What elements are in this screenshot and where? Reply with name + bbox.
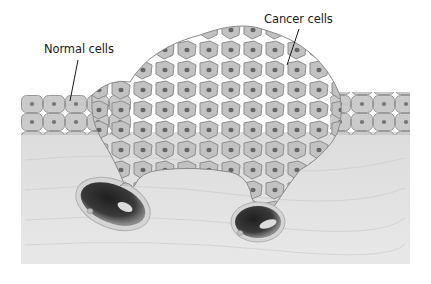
normal-cell-layer-right (330, 92, 410, 135)
normal-cells-label: Normal cells (44, 42, 114, 56)
cancer-cells-label: Cancer cells (264, 12, 333, 26)
blood-vessel-right (231, 202, 285, 242)
normal-cells-leader-line (70, 60, 78, 101)
cancer-invasion-diagram: Normal cells Cancer cells (0, 0, 431, 284)
